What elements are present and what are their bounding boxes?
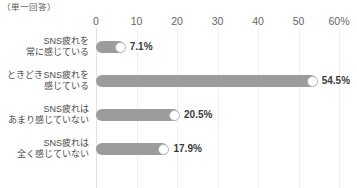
bar-end-cap bbox=[158, 144, 169, 155]
bar-value-label: 7.1% bbox=[130, 41, 153, 53]
category-label: SNS疲れを常に感じている bbox=[0, 36, 89, 58]
category-label: ときどきSNS疲れを感じている bbox=[0, 70, 89, 92]
x-tick-40: 40 bbox=[252, 14, 264, 28]
bar bbox=[96, 109, 179, 121]
category-label-line2: 全く感じていない bbox=[0, 149, 89, 160]
bar-row: SNS疲れは全く感じていない17.9% bbox=[0, 138, 357, 172]
category-label-line2: 常に感じている bbox=[0, 47, 89, 58]
bar-row: ときどきSNS疲れを感じている54.5% bbox=[0, 70, 357, 104]
x-axis-tick-labels: 0102030405060% bbox=[0, 14, 357, 28]
bar-row: SNS疲れを常に感じている7.1% bbox=[0, 36, 357, 70]
category-label-line1: SNS疲れは bbox=[0, 104, 89, 115]
bar-end-cap bbox=[307, 76, 318, 87]
category-label-line2: あまり感じていない bbox=[0, 115, 89, 126]
category-label-line1: ときどきSNS疲れを bbox=[0, 70, 89, 81]
bar-value-label: 20.5% bbox=[184, 109, 212, 121]
category-label-line1: SNS疲れは bbox=[0, 138, 89, 149]
bar-value-label: 54.5% bbox=[322, 75, 350, 87]
bar bbox=[96, 75, 317, 87]
category-label: SNS疲れはあまり感じていない bbox=[0, 104, 89, 126]
category-label: SNS疲れは全く感じていない bbox=[0, 138, 89, 160]
x-tick-10: 10 bbox=[131, 14, 143, 28]
x-tick-30: 30 bbox=[212, 14, 224, 28]
chart-subtitle: （単一回答） bbox=[2, 2, 56, 13]
chart-container: あなたは、SNS疲れ（ソーシャル疲れ）を感じることがありますか。 （単一回答） … bbox=[0, 0, 357, 188]
category-label-line1: SNS疲れを bbox=[0, 36, 89, 47]
bar-value-label: 17.9% bbox=[173, 143, 201, 155]
x-tick-0: 0 bbox=[93, 14, 99, 28]
x-tick-20: 20 bbox=[171, 14, 183, 28]
bar-row: SNS疲れはあまり感じていない20.5% bbox=[0, 104, 357, 138]
x-tick-60: 60% bbox=[328, 14, 349, 28]
x-tick-50: 50 bbox=[293, 14, 305, 28]
bar-end-cap bbox=[169, 110, 180, 121]
category-label-line2: 感じている bbox=[0, 81, 89, 92]
bar-end-cap bbox=[115, 42, 126, 53]
